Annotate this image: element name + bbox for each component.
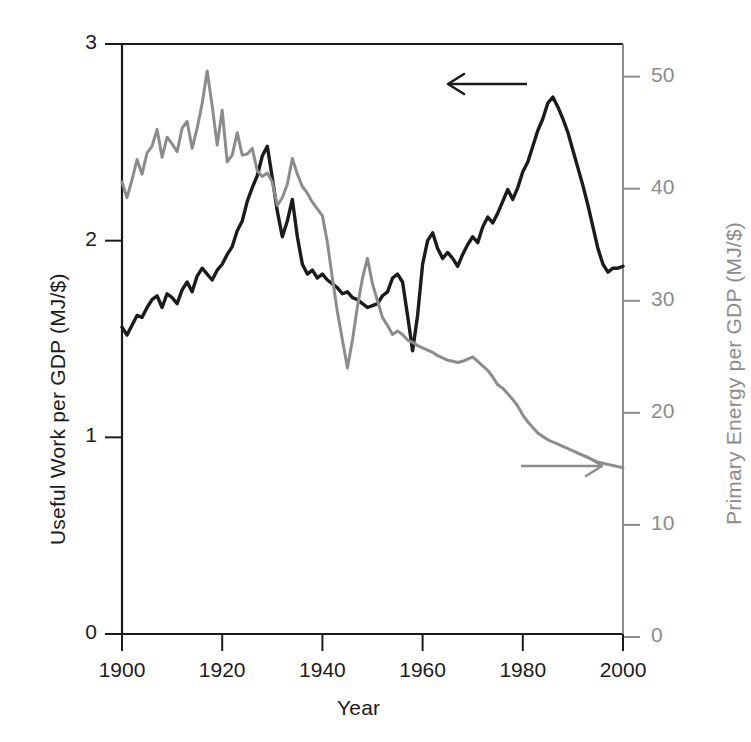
chart-canvas: [0, 0, 751, 742]
left-axis-title: Useful Work per GDP (MJ/$): [46, 273, 70, 545]
series-line-primary-energy: [122, 71, 623, 468]
left-axis-tick-label: 3: [27, 30, 97, 54]
right-axis-tick-label: 40: [651, 175, 674, 199]
right-axis-tick-label: 20: [651, 399, 674, 423]
right-axis-title: Primary Energy per GDP (MJ/$): [722, 222, 746, 525]
chart-figure: Useful Work per GDP (MJ/$) Primary Energ…: [0, 0, 751, 742]
x-axis-tick-label: 1900: [72, 658, 172, 682]
left-axis-tick-label: 0: [27, 620, 97, 644]
x-axis-tick-label: 1960: [373, 658, 473, 682]
x-axis-tick-label: 1980: [473, 658, 573, 682]
right-axis-tick-label: 10: [651, 511, 674, 535]
right-axis-tick-label: 30: [651, 287, 674, 311]
x-axis-title: Year: [337, 696, 380, 720]
right-axis-tick-label: 50: [651, 63, 674, 87]
right-axis-tick-label: 0: [651, 623, 663, 647]
x-axis-tick-label: 1940: [272, 658, 372, 682]
left-axis-tick-label: 1: [27, 423, 97, 447]
x-axis-tick-label: 2000: [573, 658, 673, 682]
series-line-useful-work: [122, 97, 623, 351]
left-axis-tick-label: 2: [27, 227, 97, 251]
x-axis-tick-label: 1920: [172, 658, 272, 682]
